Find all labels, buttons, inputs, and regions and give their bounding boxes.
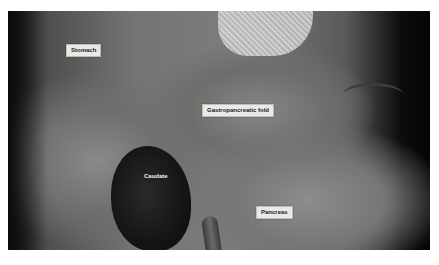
caudate-lobe [111,146,191,250]
label-stomach: Stomach [66,44,101,57]
retractor-instrument [343,83,403,106]
label-caudate: Caudate [144,173,168,179]
shadow-region [8,11,48,250]
label-gastropancreatic-fold: Gastropancreatic fold [202,104,274,117]
surgical-gauze [218,11,313,56]
label-pancreas: Pancreas [256,206,293,219]
surgical-drain [201,215,223,250]
